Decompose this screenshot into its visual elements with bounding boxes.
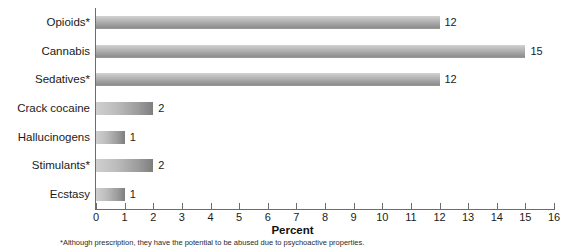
x-tick-mark <box>239 203 240 209</box>
bar <box>96 159 153 172</box>
category-label: Ecstasy <box>0 188 90 201</box>
bar <box>96 73 440 86</box>
bar <box>96 131 125 144</box>
category-label: Opioids* <box>0 16 90 29</box>
bar <box>96 16 440 29</box>
x-tick-mark <box>497 203 498 209</box>
x-axis-title: Percent <box>0 224 585 236</box>
bar-value-label: 2 <box>158 102 164 114</box>
bar <box>96 102 153 115</box>
x-tick-label: 1 <box>110 211 140 223</box>
x-tick-label: 14 <box>482 211 512 223</box>
bar-value-label: 1 <box>130 188 136 200</box>
x-tick-label: 2 <box>138 211 168 223</box>
x-tick-label: 13 <box>453 211 483 223</box>
x-axis-line <box>96 209 555 210</box>
x-tick-mark <box>96 203 97 209</box>
x-tick-mark <box>296 203 297 209</box>
x-tick-mark <box>153 203 154 209</box>
category-label: Stimulants* <box>0 159 90 172</box>
bar-value-label: 12 <box>445 73 457 85</box>
bar-value-label: 15 <box>530 45 542 57</box>
x-tick-label: 9 <box>339 211 369 223</box>
x-tick-mark <box>125 203 126 209</box>
x-tick-mark <box>211 203 212 209</box>
bar-value-label: 12 <box>445 16 457 28</box>
bar-chart-figure: 012345678910111213141516 Opioids*12Canna… <box>0 0 585 252</box>
x-tick-mark <box>182 203 183 209</box>
x-tick-label: 11 <box>396 211 426 223</box>
x-tick-mark <box>411 203 412 209</box>
category-label: Sedatives* <box>0 73 90 86</box>
x-tick-label: 16 <box>539 211 569 223</box>
bar <box>96 188 125 201</box>
x-tick-label: 8 <box>310 211 340 223</box>
x-tick-label: 0 <box>81 211 111 223</box>
x-tick-label: 4 <box>196 211 226 223</box>
x-tick-mark <box>468 203 469 209</box>
x-tick-label: 3 <box>167 211 197 223</box>
x-tick-mark <box>440 203 441 209</box>
x-tick-label: 5 <box>224 211 254 223</box>
x-tick-mark <box>525 203 526 209</box>
chart-footnote: *Although prescription, they have the po… <box>60 238 364 247</box>
x-tick-mark <box>354 203 355 209</box>
x-tick-label: 10 <box>367 211 397 223</box>
x-tick-mark <box>554 203 555 209</box>
x-tick-label: 12 <box>425 211 455 223</box>
bar <box>96 45 525 58</box>
x-tick-label: 7 <box>281 211 311 223</box>
bar-value-label: 1 <box>130 131 136 143</box>
category-label: Hallucinogens <box>0 131 90 144</box>
x-tick-mark <box>382 203 383 209</box>
x-tick-label: 15 <box>510 211 540 223</box>
category-label: Crack cocaine <box>0 102 90 115</box>
category-label: Cannabis <box>0 45 90 58</box>
x-tick-label: 6 <box>253 211 283 223</box>
x-tick-mark <box>325 203 326 209</box>
x-tick-mark <box>268 203 269 209</box>
bar-value-label: 2 <box>158 159 164 171</box>
